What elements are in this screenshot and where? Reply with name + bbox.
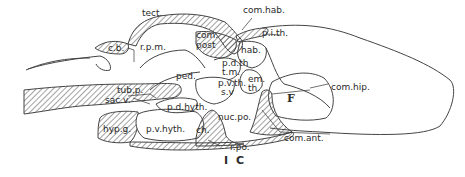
label-r-po: r.po. (230, 142, 250, 152)
nuc-po-hatched (250, 90, 292, 135)
label-com-ant: com.ant. (284, 133, 324, 143)
label-hab: hab. (241, 45, 261, 55)
label-c-b: c.b. (108, 43, 124, 53)
label-p-d-hyth: p.d.hyth. (167, 102, 207, 112)
label-com-post-1: com. (196, 30, 218, 40)
label-nuc-po: nuc.po. (218, 112, 251, 122)
dorsal-outline (28, 56, 111, 71)
vertical-thalamic-line (266, 48, 330, 108)
fornix-region (269, 73, 334, 120)
label-F: F (287, 92, 295, 105)
label-tect: tect. (142, 8, 162, 18)
thalamus-outline (140, 50, 205, 68)
brain-section-diagram: tect. com.hab. p.i.th. c.b. r.p.m. com. … (0, 0, 465, 177)
label-com-post-2: post (196, 40, 216, 50)
label-ch: ch. (196, 125, 210, 135)
label-p-i-th: p.i.th. (262, 28, 288, 38)
label-hyp-g: hyp.g. (103, 124, 131, 134)
label-em-th-2: th. (248, 83, 260, 93)
label-ped: ped. (176, 71, 196, 81)
ventral-rhombic-line (26, 58, 90, 70)
label-sac-v: sac.v. (105, 95, 131, 105)
label-r-p-m: r.p.m. (140, 42, 166, 52)
label-t-m: t.m. (222, 67, 240, 77)
label-s-v: s.v (221, 87, 235, 97)
label-com-hab: com.hab. (243, 5, 285, 15)
telencephalon-outline (262, 25, 454, 134)
label-com-hip: com.hip. (331, 82, 370, 92)
figure-label: I C (224, 154, 246, 167)
label-tub-p: tub.p. (117, 85, 143, 95)
label-p-v-hyth: p.v.hyth. (146, 124, 185, 134)
